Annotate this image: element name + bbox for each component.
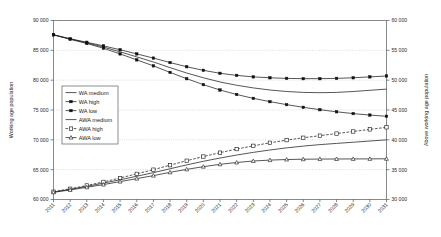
data-point-marker [235, 74, 238, 77]
x-axis-tick-label: 2020 [193, 201, 205, 213]
y2-axis-tick-label: 60 000 [392, 17, 408, 23]
data-point-marker [235, 93, 238, 96]
data-point-marker [285, 77, 288, 80]
data-point-marker [235, 147, 238, 150]
y-axis-tick-label: 85 000 [33, 47, 49, 53]
data-point-marker [119, 53, 122, 56]
y2-axis-tick-label: 55 000 [392, 47, 408, 53]
data-point-marker [302, 136, 305, 139]
data-point-marker [169, 61, 172, 64]
data-point-marker [268, 141, 271, 144]
data-point-marker [202, 155, 205, 158]
data-point-marker [335, 132, 338, 135]
data-point-marker [368, 128, 371, 131]
data-point-marker [185, 77, 188, 80]
series-wa-high [52, 34, 388, 80]
legend-item-label: AWA high [79, 126, 103, 132]
data-point-marker [202, 69, 205, 72]
x-axis-tick-label: 2019 [177, 201, 189, 213]
y2-axis-tick-label: 35 000 [392, 167, 408, 173]
data-point-marker [352, 112, 355, 115]
data-point-marker [385, 126, 388, 129]
data-point-marker [352, 130, 355, 133]
data-point-marker [70, 109, 73, 112]
data-point-marker [218, 151, 221, 154]
y2-axis-title: Above working age population [423, 74, 429, 146]
data-point-marker [285, 103, 288, 106]
x-axis-tick-label: 2026 [293, 201, 305, 213]
data-point-marker [136, 53, 139, 56]
legend-item-label: AWA medium [79, 117, 113, 123]
x-axis-tick-label: 2015 [110, 201, 122, 213]
legend-item-label: WA high [79, 99, 100, 105]
legend-item-label: WA low [79, 108, 98, 114]
legend-swatch-marker [69, 127, 72, 130]
x-axis-tick-label: 2030 [360, 201, 372, 213]
y2-axis-tick-label: 40 000 [392, 137, 408, 143]
y2-axis-tick-label: 50 000 [392, 77, 408, 83]
legend-swatch-marker [70, 109, 73, 112]
data-point-marker [69, 38, 72, 41]
data-point-marker [152, 57, 155, 60]
data-point-marker [285, 138, 288, 141]
data-point-marker [335, 77, 338, 80]
legend-swatch-marker [70, 100, 73, 103]
series-wa-medium [54, 35, 387, 93]
y2-axis-tick-label: 45 000 [392, 107, 408, 113]
y-axis-tick-label: 60 000 [33, 196, 49, 202]
x-axis-tick-label: 2011 [44, 201, 56, 213]
data-point-marker [202, 83, 205, 86]
legend-item-label: WA medium [79, 90, 109, 96]
x-axis-tick-label: 2025 [277, 201, 289, 213]
data-point-marker [352, 77, 355, 80]
x-axis-tick-label: 2029 [343, 201, 355, 213]
y-axis-title: Working age population [8, 82, 14, 139]
data-point-marker [135, 172, 138, 175]
data-point-marker [119, 48, 122, 51]
y-axis-tick-label: 80 000 [33, 77, 49, 83]
data-point-marker [70, 100, 73, 103]
data-point-marker [252, 97, 255, 100]
data-point-marker [302, 77, 305, 80]
population-projection-line-chart: 60 00065 00070 00075 00080 00085 00090 0… [0, 0, 441, 237]
data-point-marker [302, 106, 305, 109]
data-point-marker [219, 72, 222, 75]
x-axis-tick-label: 2012 [60, 201, 72, 213]
data-point-marker [185, 65, 188, 68]
data-point-marker [385, 75, 388, 78]
data-point-marker [136, 59, 139, 62]
x-axis-tick-label: 2016 [127, 201, 139, 213]
data-point-marker [69, 127, 72, 130]
data-point-marker [269, 77, 272, 80]
data-point-marker [369, 76, 372, 79]
x-axis-tick-label: 2018 [160, 201, 172, 213]
y2-axis-tick-label: 30 000 [392, 196, 408, 202]
data-point-marker [369, 114, 372, 117]
x-axis-tick-label: 2021 [210, 201, 222, 213]
data-point-marker [335, 111, 338, 114]
legend-item-label: AWA low [79, 135, 102, 141]
data-point-marker [169, 71, 172, 74]
y-axis-tick-label: 65 000 [33, 167, 49, 173]
x-axis-tick-label: 2028 [327, 201, 339, 213]
data-point-marker [185, 159, 188, 162]
data-point-marker [252, 144, 255, 147]
data-point-marker [319, 77, 322, 80]
chart-legend: WA mediumWA highWA lowAWA mediumAWA high… [62, 86, 118, 144]
data-point-marker [269, 100, 272, 103]
data-point-marker [319, 108, 322, 111]
data-point-marker [52, 34, 55, 37]
x-axis-tick-label: 2022 [227, 201, 239, 213]
data-point-marker [219, 89, 222, 92]
data-point-marker [152, 168, 155, 171]
x-axis-tick-label: 2023 [243, 201, 255, 213]
data-point-marker [252, 76, 255, 79]
data-point-marker [152, 65, 155, 68]
x-axis-tick-label: 2014 [93, 201, 105, 213]
chart-container: 60 00065 00070 00075 00080 00085 00090 0… [0, 0, 441, 237]
x-axis-tick-label: 2013 [77, 201, 89, 213]
data-point-marker [102, 45, 105, 48]
series-awa-low [52, 157, 389, 194]
data-point-marker [318, 134, 321, 137]
data-point-marker [168, 163, 171, 166]
